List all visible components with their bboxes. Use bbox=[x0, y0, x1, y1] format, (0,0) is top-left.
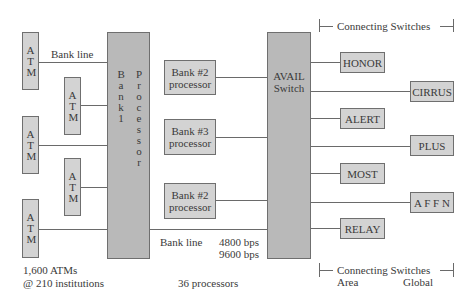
bank2-processor: Bank #2 processor bbox=[164, 60, 216, 95]
footer-global-label: Global bbox=[403, 276, 433, 288]
atm-box: ATM bbox=[64, 158, 81, 216]
bank3-processor: Bank #3 processor bbox=[164, 119, 216, 155]
bank-line-bottom-label: Bank line bbox=[160, 236, 202, 248]
atm-box: ATM bbox=[22, 116, 39, 174]
most-link bbox=[310, 173, 340, 174]
switch-alert: ALERT bbox=[340, 108, 385, 129]
bank2-line2: processor bbox=[169, 78, 211, 90]
processor-label: Processor bbox=[136, 69, 143, 168]
atm-count-caption: 1,600 ATMs bbox=[23, 264, 77, 276]
atm-label: ATM bbox=[69, 90, 77, 123]
honor-link bbox=[310, 62, 340, 63]
atm2-link bbox=[80, 105, 107, 106]
switch-label: ALERT bbox=[345, 113, 380, 125]
avail-line2: Switch bbox=[274, 82, 305, 94]
atm-label: ATM bbox=[27, 129, 35, 162]
bank2-line1: Bank #2 bbox=[172, 66, 209, 78]
affn-link bbox=[310, 202, 410, 203]
bank1-label: Bank 1 bbox=[118, 69, 125, 124]
switch-honor: HONOR bbox=[340, 52, 385, 73]
switch-label: A F F N bbox=[414, 197, 450, 209]
atm-label: ATM bbox=[27, 45, 35, 78]
speed-4800: 4800 bps bbox=[219, 236, 259, 248]
bank2b-line1: Bank #2 bbox=[172, 189, 209, 201]
atm-box: ATM bbox=[22, 199, 39, 258]
switch-label: CIRRUS bbox=[412, 86, 452, 98]
bank2-link bbox=[216, 77, 267, 78]
footer-bracket-left-dash bbox=[319, 270, 333, 271]
switch-label: RELAY bbox=[345, 223, 381, 235]
cirrus-link bbox=[310, 91, 410, 92]
switch-cirrus: CIRRUS bbox=[410, 81, 454, 102]
switch-label: PLUS bbox=[419, 140, 446, 152]
atm-label: ATM bbox=[27, 212, 35, 245]
atm-box: ATM bbox=[64, 77, 81, 135]
switch-relay: RELAY bbox=[340, 218, 385, 239]
bank2b-processor: Bank #2 processor bbox=[164, 183, 216, 219]
header-bracket-right bbox=[453, 19, 454, 32]
switch-label: MOST bbox=[347, 168, 378, 180]
header-label: Connecting Switches bbox=[337, 20, 430, 32]
footer-bracket-right bbox=[453, 263, 454, 277]
footer-bracket-right-dash bbox=[440, 270, 453, 271]
bank2b-line2: processor bbox=[169, 201, 211, 213]
switch-plus: PLUS bbox=[410, 135, 454, 156]
plus-link bbox=[310, 146, 410, 147]
atm1-link bbox=[38, 62, 107, 63]
footer-label: Connecting Switches bbox=[337, 264, 430, 276]
switch-affn: A F F N bbox=[410, 192, 454, 213]
bank3-link bbox=[216, 137, 267, 138]
relay-link bbox=[310, 228, 340, 229]
bank3-line2: processor bbox=[169, 137, 211, 149]
footer-area-label: Area bbox=[337, 276, 358, 288]
bank-line-bottom-link bbox=[149, 229, 267, 230]
alert-link bbox=[310, 118, 340, 119]
speed-9600: 9600 bps bbox=[219, 248, 259, 260]
switch-label: HONOR bbox=[343, 57, 382, 69]
avail-line1: AVAIL bbox=[273, 70, 304, 82]
bank-line-top-label: Bank line bbox=[51, 48, 93, 60]
header-bracket-left-dash bbox=[319, 26, 333, 27]
atm4-link bbox=[80, 187, 107, 188]
atm5-link bbox=[38, 229, 107, 230]
institutions-caption: @ 210 institutions bbox=[23, 277, 104, 289]
avail-switch: AVAIL Switch bbox=[267, 32, 311, 259]
bank2b-link bbox=[216, 200, 267, 201]
bank1-processor: Bank 1 Processor bbox=[107, 32, 150, 259]
atm-box: ATM bbox=[22, 32, 39, 90]
switch-most: MOST bbox=[340, 163, 385, 184]
header-bracket-right-dash bbox=[440, 26, 453, 27]
atm3-link bbox=[38, 145, 107, 146]
processors-caption: 36 processors bbox=[178, 277, 238, 289]
atm-label: ATM bbox=[69, 171, 77, 204]
bank3-line1: Bank #3 bbox=[172, 125, 209, 137]
